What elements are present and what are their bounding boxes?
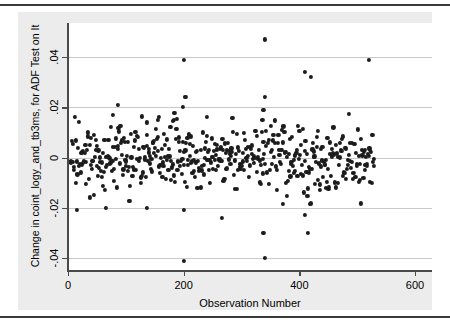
data-point <box>290 135 294 139</box>
data-point <box>309 201 313 205</box>
x-tick-mark <box>68 271 69 276</box>
data-point <box>163 143 167 147</box>
data-point-outlier <box>104 206 108 210</box>
gridline-y <box>68 208 432 209</box>
data-point <box>87 195 91 199</box>
data-point <box>254 129 258 133</box>
data-point-outlier <box>303 70 307 74</box>
x-tick-mark <box>184 271 185 276</box>
data-point <box>172 111 176 115</box>
data-point <box>117 129 121 133</box>
data-point <box>90 167 94 171</box>
data-point-outlier <box>181 105 185 109</box>
data-point <box>77 120 81 124</box>
data-point <box>326 167 330 171</box>
data-point <box>279 162 283 166</box>
data-point <box>301 173 305 177</box>
y-axis-line <box>67 23 69 271</box>
data-point-outlier <box>306 231 310 235</box>
data-point <box>125 140 129 144</box>
data-point <box>205 134 209 138</box>
data-point <box>276 133 280 137</box>
data-point <box>129 132 133 136</box>
data-point <box>172 173 176 177</box>
data-point <box>84 160 88 164</box>
y-tick-label: 0 <box>48 148 60 168</box>
data-point <box>184 185 188 189</box>
x-tick-label: 400 <box>290 279 308 291</box>
data-point <box>121 173 125 177</box>
data-point-outlier <box>263 256 267 260</box>
data-point-outlier <box>261 231 265 235</box>
data-point <box>282 130 286 134</box>
data-point <box>281 202 285 206</box>
data-point <box>338 155 342 159</box>
data-point <box>361 176 365 180</box>
data-point-outlier <box>156 118 160 122</box>
data-point <box>112 179 116 183</box>
y-tick-label: -.04 <box>48 248 60 268</box>
data-point <box>305 194 309 198</box>
data-point <box>363 168 367 172</box>
y-tick-mark <box>62 208 67 209</box>
data-point <box>300 163 304 167</box>
data-point <box>118 124 122 128</box>
data-point <box>225 166 229 170</box>
data-point <box>126 168 130 172</box>
data-point <box>202 163 206 167</box>
data-point <box>264 129 268 133</box>
data-point <box>100 174 104 178</box>
data-point <box>99 160 103 164</box>
data-point <box>209 136 213 140</box>
data-point <box>327 184 331 188</box>
gridline-y <box>68 57 432 58</box>
data-point <box>312 149 316 153</box>
data-point <box>318 182 322 186</box>
data-point <box>272 155 276 159</box>
data-point <box>92 193 96 197</box>
data-point <box>336 181 340 185</box>
x-tick-label: 200 <box>174 279 192 291</box>
data-point <box>263 162 267 166</box>
data-point <box>72 168 76 172</box>
data-point-outlier <box>367 57 371 61</box>
data-point <box>291 164 295 168</box>
data-point <box>168 125 172 129</box>
data-point <box>324 158 328 162</box>
data-point <box>272 118 276 122</box>
gridline-y <box>68 107 432 108</box>
data-point <box>254 170 258 174</box>
x-axis-line <box>67 270 432 272</box>
data-point <box>316 178 320 182</box>
data-point <box>74 138 78 142</box>
data-point-outlier <box>172 118 176 122</box>
data-point <box>334 185 338 189</box>
data-point <box>124 159 128 163</box>
document-rule-top <box>0 4 450 6</box>
data-point <box>268 168 272 172</box>
data-point <box>140 114 144 118</box>
data-point-outlier <box>205 115 209 119</box>
data-point-outlier <box>309 75 313 79</box>
data-point <box>83 143 87 147</box>
data-point <box>338 141 342 145</box>
data-point <box>136 135 140 139</box>
data-point <box>333 143 337 147</box>
data-point <box>133 138 137 142</box>
data-point <box>132 144 136 148</box>
x-tick-label: 600 <box>406 279 424 291</box>
data-point <box>106 138 110 142</box>
data-point <box>127 199 131 203</box>
data-point <box>145 133 149 137</box>
data-point <box>73 114 77 118</box>
data-point <box>87 177 91 181</box>
data-point <box>138 181 142 185</box>
data-point <box>341 134 345 138</box>
data-point <box>150 169 154 173</box>
data-point <box>306 186 310 190</box>
y-tick-mark <box>62 258 67 259</box>
data-point <box>214 168 218 172</box>
data-point <box>120 153 124 157</box>
data-point <box>350 160 354 164</box>
data-point <box>147 147 151 151</box>
